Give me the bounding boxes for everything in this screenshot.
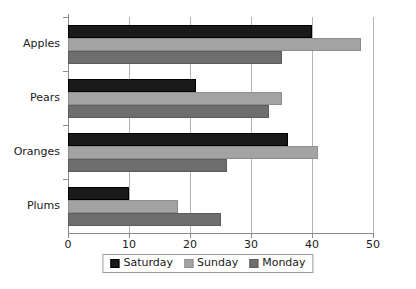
bar-plums-saturday [68,187,129,200]
legend-label-monday: Monday [262,257,305,269]
y-axis-tick-3 [63,179,68,180]
x-axis-label-40: 40 [297,238,327,251]
bar-oranges-saturday [68,133,288,146]
y-axis-label-apples: Apples [23,38,60,50]
bar-apples-monday [68,51,282,64]
bar-pears-monday [68,105,269,118]
y-axis-tick-1 [63,71,68,72]
bar-apples-saturday [68,25,312,38]
x-axis-label-0: 0 [53,238,83,251]
y-axis-label-plums: Plums [27,200,60,212]
y-axis-label-oranges: Oranges [14,146,60,158]
y-axis-label-pears: Pears [30,92,60,104]
bar-group-apples [68,17,373,71]
legend-swatch-monday-icon [249,259,258,268]
bar-chart: 01020304050ApplesPearsOrangesPlums Satur… [0,0,416,289]
legend-item-sunday[interactable]: Sunday [184,257,238,269]
x-axis-label-20: 20 [175,238,205,251]
legend-item-monday[interactable]: Monday [249,257,305,269]
bar-apples-sunday [68,38,361,51]
y-axis-tick-0 [63,17,68,18]
bar-group-plums [68,179,373,233]
bar-oranges-sunday [68,146,318,159]
x-axis-label-50: 50 [358,238,388,251]
gridline-x-50 [373,17,374,233]
bar-group-oranges [68,125,373,179]
legend-item-saturday[interactable]: Saturday [110,257,173,269]
bar-plums-monday [68,213,221,226]
legend-label-saturday: Saturday [123,257,173,269]
x-axis-label-10: 10 [114,238,144,251]
x-axis-line [68,233,374,234]
bar-oranges-monday [68,159,227,172]
chart-legend: SaturdaySundayMonday [102,254,313,273]
legend-label-sunday: Sunday [197,257,238,269]
legend-swatch-sunday-icon [184,259,193,268]
bar-pears-sunday [68,92,282,105]
bar-pears-saturday [68,79,196,92]
plot-area [68,17,373,233]
x-axis-label-30: 30 [236,238,266,251]
y-axis-tick-2 [63,125,68,126]
bar-group-pears [68,71,373,125]
bar-plums-sunday [68,200,178,213]
legend-swatch-saturday-icon [110,259,119,268]
